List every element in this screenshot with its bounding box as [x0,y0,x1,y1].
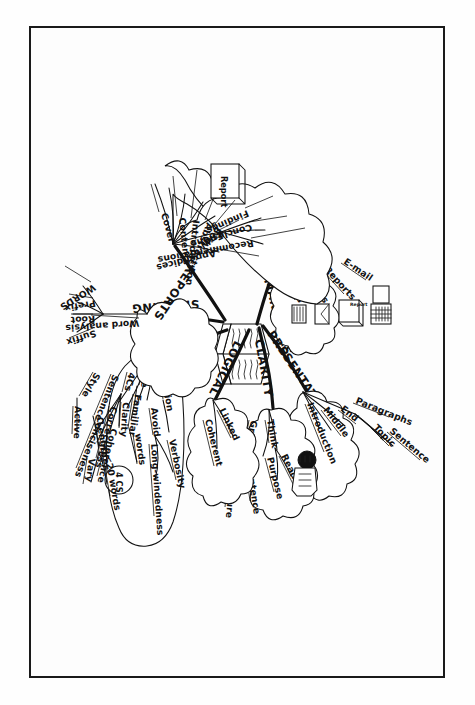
drawing-frame: MANAGERS Memos Letters Reports E-mail [29,26,445,678]
label-sentence-topic: Sentence [388,425,433,465]
mindmap-page: MANAGERS Memos Letters Reports E-mail [0,0,475,705]
report-book-icon-managers: Report [339,300,368,326]
report-icon-text-2: Report [219,176,229,207]
report-icon-text: Report [350,302,368,307]
label-active: Active [72,406,84,439]
branch-reports[interactable]: REPORTS Cover Contents Introduction [151,161,332,323]
rotated-canvas: MANAGERS Memos Letters Reports E-mail [31,28,447,680]
label-root: Root [70,314,95,326]
envelope-icon [315,304,329,324]
memo-icon [292,305,306,323]
mindmap-svg: MANAGERS Memos Letters Reports E-mail [31,28,447,680]
computer-icon [371,286,391,324]
branch-spelling[interactable]: SPELLING Word analysis WORDS Prefix Root [58,266,223,397]
label-email: E-mail [342,256,375,283]
label-paragraphs: Paragraphs [354,395,414,428]
